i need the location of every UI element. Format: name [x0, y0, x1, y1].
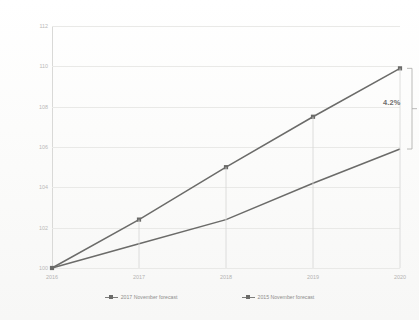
legend-marker-icon	[242, 295, 255, 300]
legend-marker-icon	[105, 295, 118, 300]
legend-item[interactable]: 2015 November forecast	[242, 294, 315, 300]
legend-item-label: 2017 November forecast	[121, 294, 178, 300]
legend-item[interactable]: 2017 November forecast	[105, 294, 178, 300]
legend-item-label: 2015 November forecast	[258, 294, 315, 300]
chart-legend: 2017 November forecast2015 November fore…	[0, 289, 419, 305]
line-chart: 112110108106104102100 201620172018201920…	[0, 0, 419, 320]
series-layer	[0, 0, 419, 320]
growth-gap-annotation: 4.2%	[383, 98, 401, 107]
